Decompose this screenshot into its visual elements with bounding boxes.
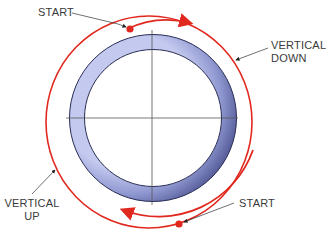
leader-start-top	[72, 13, 126, 27]
start-dot-bottom	[175, 220, 182, 227]
start-dot-top	[126, 25, 133, 32]
label-vertical-up: VERTICAL UP	[4, 197, 60, 223]
leader-vertical-down	[236, 48, 268, 60]
label-vertical-up-line2: UP	[4, 210, 60, 223]
top-direction-arrow	[127, 20, 190, 29]
label-start-bottom: START	[239, 197, 275, 210]
label-vertical-down-line2: DOWN	[271, 52, 326, 65]
center-axes	[66, 30, 238, 205]
label-start-top: START	[38, 6, 74, 19]
leader-vertical-up	[32, 170, 55, 194]
label-vertical-up-line1: VERTICAL	[4, 197, 60, 210]
label-vertical-down: VERTICAL DOWN	[271, 39, 326, 65]
leader-start-bottom	[184, 203, 234, 222]
label-vertical-down-line1: VERTICAL	[271, 39, 326, 52]
